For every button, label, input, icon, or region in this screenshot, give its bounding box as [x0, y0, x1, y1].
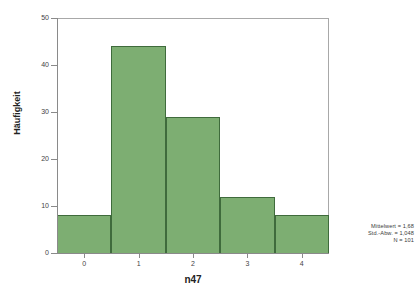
histogram-bar: [166, 117, 220, 253]
x-axis-tick: [139, 253, 140, 258]
histogram-figure: 01020304050 Häufigkeit 01234 n47 Mittelw…: [0, 0, 417, 293]
y-axis-tick-label: 50: [15, 14, 49, 22]
x-axis-tick-label: 2: [181, 260, 205, 267]
histogram-bar: [220, 197, 274, 253]
histogram-bar: [275, 215, 329, 253]
x-axis-tick: [247, 253, 248, 258]
bars-layer: [57, 18, 329, 253]
y-axis-tick: [51, 159, 57, 160]
y-axis-tick: [51, 65, 57, 66]
x-axis-tick: [193, 253, 194, 258]
x-axis-tick-label: 3: [235, 260, 259, 267]
y-axis-tick: [51, 112, 57, 113]
x-axis-title: n47: [57, 274, 329, 285]
y-axis-tick-label: 10: [15, 202, 49, 210]
y-axis-line: [57, 18, 58, 253]
histogram-bar: [57, 215, 111, 253]
x-axis-tick-label: 4: [290, 260, 314, 267]
y-axis-tick-label: 0: [15, 249, 49, 257]
stats-mean: Mittelwert = 1,68: [336, 223, 414, 230]
y-axis-tick: [51, 18, 57, 19]
histogram-bar: [111, 46, 165, 253]
x-axis-tick: [84, 253, 85, 258]
stats-n: N = 101: [336, 237, 414, 244]
y-axis-tick: [51, 206, 57, 207]
x-axis-tick-label: 0: [72, 260, 96, 267]
stats-annotation: Mittelwert = 1,68 Std.-Abw. = 1,048 N = …: [336, 223, 414, 245]
stats-sd: Std.-Abw. = 1,048: [336, 230, 414, 237]
x-axis-tick: [302, 253, 303, 258]
x-axis-tick-label: 1: [127, 260, 151, 267]
y-axis-title: Häufigkeit: [12, 68, 22, 158]
